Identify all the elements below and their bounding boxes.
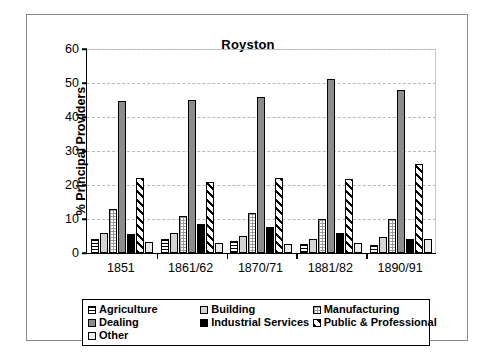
y-tick-mark [82,48,87,50]
y-tick-label: 40 [35,110,79,124]
chart-frame: Royston 0102030405060 % Principal Provid… [26,14,468,341]
legend-swatch-icon [88,332,96,340]
x-axis-label: 1881/82 [295,261,365,275]
legend-item[interactable]: Public & Professional [313,316,425,329]
chart-screenshot: Royston 0102030405060 % Principal Provid… [0,0,494,357]
chart-legend: AgricultureBuildingManufacturingDealingI… [82,299,430,346]
legend-item[interactable]: Agriculture [88,303,200,316]
x-axis-label: 1861/62 [156,261,226,275]
y-tick-label: 20 [35,178,79,192]
x-axis-ticks [87,253,436,259]
x-axis-label: 1890/91 [365,261,435,275]
legend-label: Public & Professional [324,316,437,329]
legend-swatch-icon [200,306,208,314]
y-tick-label: 50 [35,76,79,90]
plot-area: 0102030405060 % Principal Providers [86,49,436,254]
legend-swatch-icon [313,306,321,314]
x-tick [296,253,298,259]
legend-swatch-icon [88,319,96,327]
legend-label: Manufacturing [324,303,400,316]
legend-item[interactable]: Building [200,303,312,316]
x-tick [157,253,159,259]
x-tick [366,253,368,259]
legend-swatch-icon [200,319,208,327]
legend-swatch-icon [313,319,321,327]
x-axis-labels: 18511861/621870/711881/821890/91 [86,261,435,275]
y-tick-label: 10 [35,212,79,226]
y-tick-mark [82,252,87,254]
legend-label: Dealing [99,316,139,329]
legend-label: Other [99,329,128,342]
y-tick-label: 30 [35,144,79,158]
x-axis-label: 1851 [86,261,156,275]
legend-item[interactable]: Other [88,329,200,342]
y-tick-mark [82,218,87,220]
legend-label: Industrial Services [211,316,309,329]
y-axis-title: % Principal Providers [74,87,88,216]
y-tick-label: 60 [35,42,79,56]
legend-item[interactable]: Dealing [88,316,200,329]
legend-swatch-icon [88,306,96,314]
y-tick-mark [82,82,87,84]
y-tick-label: 0 [35,246,79,260]
legend-item[interactable]: Industrial Services [200,316,312,329]
x-axis-label: 1870/71 [226,261,296,275]
legend-label: Building [211,303,255,316]
legend-label: Agriculture [99,303,158,316]
legend-item[interactable]: Manufacturing [313,303,425,316]
y-axis: 0102030405060 [87,49,436,253]
x-tick [227,253,229,259]
